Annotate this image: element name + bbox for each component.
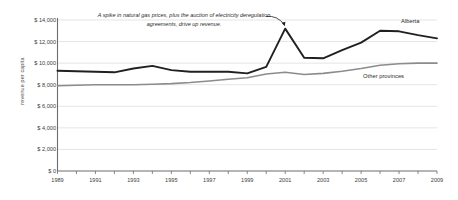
x-tick-label: 1995 xyxy=(165,177,177,183)
x-tick-label: 2009 xyxy=(431,177,443,183)
x-axis-tick-labels: 1989199119931995199719992001200320052007… xyxy=(0,0,458,200)
x-tick-label: 2003 xyxy=(317,177,329,183)
x-tick-label: 1997 xyxy=(203,177,215,183)
x-tick-label: 1999 xyxy=(241,177,253,183)
x-tick-label: 1991 xyxy=(89,177,101,183)
x-tick-label: 2005 xyxy=(355,177,367,183)
x-tick-label: 2001 xyxy=(279,177,291,183)
x-tick-label: 1989 xyxy=(51,177,63,183)
spike-annotation-text: A spike in natural gas prices, plus the … xyxy=(96,11,272,29)
x-tick-label: 1993 xyxy=(127,177,139,183)
series-label-other-provinces: Other provinces xyxy=(363,73,404,79)
revenue-per-capita-line-chart: revenue per capita $ 0$ 2,000$ 4,000$ 6,… xyxy=(0,0,458,200)
x-tick-label: 2007 xyxy=(393,177,405,183)
series-label-alberta: Alberta xyxy=(401,18,419,24)
